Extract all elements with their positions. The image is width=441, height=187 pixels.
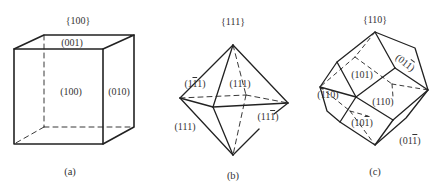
caption-b: (b) — [227, 171, 239, 181]
face-label-010: (010) — [108, 87, 130, 97]
face-label-011bar-lower: (011) — [399, 136, 420, 146]
caption-c: (c) — [369, 167, 381, 177]
face-label-001: (001) — [61, 38, 83, 48]
family-label-111: {111} — [221, 17, 245, 27]
face-label-100: (100) — [60, 87, 82, 97]
face-label-111-front: (111) — [230, 79, 251, 89]
family-label-110: {110} — [363, 15, 387, 25]
octahedron-drawing — [180, 45, 288, 155]
face-label-1bar10: (110) — [317, 90, 338, 100]
caption-a: (a) — [64, 167, 76, 177]
face-label-111-lower: (111) — [175, 122, 196, 132]
face-label-110: (110) — [372, 97, 393, 107]
face-label-1bar11: (111) — [185, 79, 206, 89]
family-label-100: {100} — [66, 16, 91, 26]
face-label-111bar: (111) — [258, 112, 279, 122]
face-label-101bar: (101) — [351, 118, 373, 128]
face-label-101: (101) — [351, 70, 373, 80]
